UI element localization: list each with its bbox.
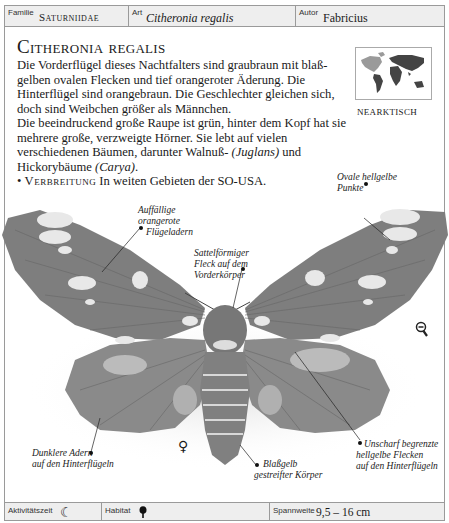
activity-cell: Aktivitätszeit ☾ xyxy=(5,503,102,520)
annotation-hind-spots: Unscharf begrenzte hellgelbe Flecken auf… xyxy=(356,439,438,472)
habitat-cell: Habitat xyxy=(102,503,270,520)
species-cell: Art Citheronia regalis xyxy=(129,6,296,26)
author-cell: Autor Fabricius xyxy=(296,6,444,26)
annotation-line: Dunklere Adern xyxy=(32,448,114,459)
species-label: Art xyxy=(132,8,142,17)
moon-icon: ☾ xyxy=(60,504,73,520)
annotation-line: Sattelförmiger xyxy=(194,248,249,259)
header-bar: Familie Saturniidae Art Citheronia regal… xyxy=(4,5,445,27)
annotation-saddle: Sattelförmiger Fleck auf dem Vorderkörpe… xyxy=(194,248,249,281)
annotation-dot xyxy=(89,451,93,455)
wingspan-cell: Spannweite 9,5 – 16 cm xyxy=(270,503,444,520)
annotation-dark-veins: Dunklere Adern auf den Hinterflügeln xyxy=(32,448,114,470)
tree-icon xyxy=(139,506,147,518)
activity-label: Aktivitätszeit xyxy=(8,506,52,515)
author-label: Autor xyxy=(299,8,318,17)
annotation-line: auf den Hinterflügeln xyxy=(32,459,114,470)
species-value: Citheronia regalis xyxy=(146,11,233,26)
world-map xyxy=(355,47,432,100)
text: . xyxy=(135,160,138,174)
family-value: Saturniidae xyxy=(39,11,99,23)
family-label: Familie xyxy=(8,8,34,17)
annotation-dot xyxy=(364,182,368,186)
habitat-label: Habitat xyxy=(105,506,130,515)
annotation-dot xyxy=(358,441,362,445)
annotation-dot xyxy=(139,226,143,230)
annotation-body: Blaßgelb gestreifter Körper xyxy=(254,459,323,481)
page-title: Citheronia regalis xyxy=(17,36,165,58)
genus-juglans: (Juglans) xyxy=(232,145,280,159)
annotation-line: hellgelbe Flecken xyxy=(356,450,438,461)
region-label: NEARKTISCH xyxy=(357,107,417,117)
world-map-icon xyxy=(356,48,431,99)
distribution: • Verbreitung In weiten Gebieten der SO-… xyxy=(17,174,347,189)
annotation-dot xyxy=(241,267,245,271)
annotation-line: gestreifter Körper xyxy=(254,470,323,481)
description-paragraph-1: Die Vorderflügel dieses Nachtfalters sin… xyxy=(17,58,347,116)
wingspan-value: 9,5 – 16 cm xyxy=(316,506,370,518)
wingspan-label: Spannweite xyxy=(273,506,315,515)
distribution-text: In weiten Gebieten der SO-USA. xyxy=(99,174,266,188)
annotation-dot xyxy=(255,463,259,467)
author-value: Fabricius xyxy=(323,11,368,26)
annotation-line: orangerote xyxy=(138,216,193,227)
annotation-line: auf den Hinterflügeln xyxy=(356,461,438,472)
female-symbol: ♀ xyxy=(178,438,188,454)
annotation-line: Auffällige xyxy=(138,205,193,216)
annotation-line: Blaßgelb xyxy=(254,459,323,470)
description-paragraph-2: Die beeindruckend große Raupe ist grün, … xyxy=(17,116,347,174)
genus-carya: (Carya) xyxy=(95,160,135,174)
family-cell: Familie Saturniidae xyxy=(5,6,129,26)
distribution-label: Verbreitung xyxy=(25,174,97,188)
annotation-line: Unscharf begrenzte xyxy=(356,439,438,450)
annotation-line: Flügeladern xyxy=(138,227,193,238)
footer-bar: Aktivitätszeit ☾ Habitat Spannweite 9,5 … xyxy=(4,502,445,521)
zoom-out-icon[interactable] xyxy=(415,321,429,343)
annotation-line: Vorderkörper xyxy=(194,270,249,281)
description: Die Vorderflügel dieses Nachtfalters sin… xyxy=(17,58,347,189)
annotation-veins: Auffällige orangerote Flügeladern xyxy=(138,205,193,238)
